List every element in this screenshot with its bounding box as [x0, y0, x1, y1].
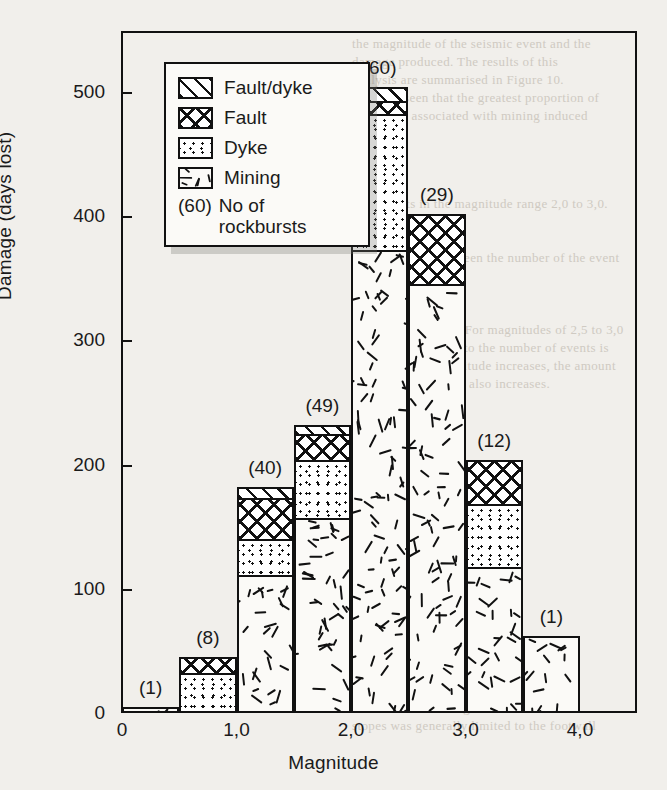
legend-swatch-cross-hatch — [178, 107, 213, 129]
bar-segment-dyke — [468, 504, 521, 567]
legend-item-fault-dyke: Fault/dyke — [178, 73, 359, 103]
legend-label: Mining — [224, 167, 281, 189]
bar-segment-mining — [124, 709, 177, 713]
x-tick-label: 0 — [92, 719, 152, 741]
legend-note-key: (60) — [178, 195, 212, 216]
y-tick-label: 300 — [45, 329, 105, 351]
bar — [237, 487, 294, 713]
bar-segment-mining — [468, 567, 521, 713]
x-tick-label: 1,0 — [207, 719, 267, 741]
bar — [408, 214, 465, 713]
legend-swatch-short-dashes — [178, 167, 213, 189]
y-tick-label: 200 — [45, 454, 105, 476]
bar — [122, 707, 179, 713]
bar-segment-dyke — [239, 539, 292, 575]
bar-segment-fault — [468, 462, 521, 504]
x-tick-label: 4,0 — [550, 719, 610, 741]
bar — [466, 460, 523, 713]
x-tick-label: 3,0 — [436, 719, 496, 741]
bar-segment-mining — [410, 284, 463, 713]
legend-label: Fault/dyke — [224, 77, 313, 99]
legend-item-dyke: Dyke — [178, 133, 359, 163]
y-axis-label: Damage (days lost) — [0, 132, 16, 300]
bar-segment-mining — [296, 518, 349, 713]
bar-segment-mining — [353, 250, 406, 713]
bar-count-label: (1) — [106, 677, 196, 699]
x-axis-label: Magnitude — [0, 752, 667, 774]
bar-segment-fault — [410, 216, 463, 284]
bar-segment-fault — [181, 659, 234, 673]
y-tick-label: 400 — [45, 205, 105, 227]
legend-label: Fault — [224, 107, 267, 129]
chart-legend: Fault/dykeFaultDyke Mining (60) No of ro… — [164, 62, 370, 247]
chart-figure: Damage (days lost) 0100200300400500 (1)(… — [0, 0, 667, 790]
legend-swatch-diagonal-hatch — [178, 77, 213, 99]
bar-count-label: (40) — [220, 457, 310, 479]
bar-count-label: (12) — [449, 430, 539, 452]
legend-label: Dyke — [224, 137, 268, 159]
bar-count-label: (29) — [392, 184, 482, 206]
x-tick-label: 2,0 — [321, 719, 381, 741]
bar-count-label: (1) — [506, 606, 596, 628]
bar-segment-fault — [239, 498, 292, 539]
legend-item-mining: Mining — [178, 163, 359, 193]
bar-segment-fault-dyke — [239, 489, 292, 498]
y-tick-label: 100 — [45, 578, 105, 600]
legend-item-fault: Fault — [178, 103, 359, 133]
legend-note-line1: No of — [219, 195, 264, 216]
bar-count-label: (49) — [277, 395, 367, 417]
legend-swatch-stipple — [178, 137, 213, 159]
bar-segment-mining — [525, 638, 578, 713]
legend-note-line2: rockbursts — [219, 216, 307, 237]
bar-segment-fault-dyke — [296, 427, 349, 434]
y-tick-label: 500 — [45, 81, 105, 103]
bar-count-label: (8) — [163, 627, 253, 649]
bar — [523, 636, 580, 713]
legend-note: (60) No of rockbursts — [178, 195, 359, 237]
